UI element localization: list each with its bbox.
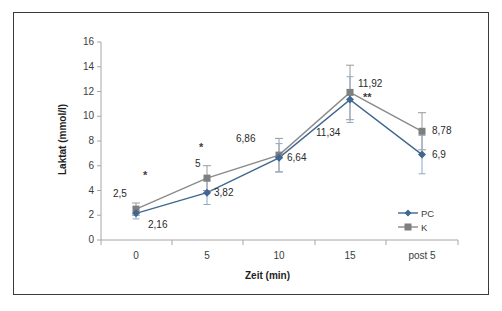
chart-page: 16 14 12 10 8 6 4 2 0 0 5 10 15 post 5 L… — [0, 0, 502, 311]
error-bars-pc — [133, 77, 426, 219]
y-tick-14: 14 — [72, 62, 94, 72]
y-tick-0: 0 — [72, 235, 94, 245]
y-tick-16: 16 — [72, 37, 94, 47]
x-axis-title: Zeit (min) — [245, 271, 290, 281]
data-label-k-0: 2,5 — [113, 189, 127, 199]
y-tick-10: 10 — [72, 111, 94, 121]
significance-marker-5: * — [199, 142, 203, 153]
data-label-k-5: 5 — [195, 159, 201, 169]
data-label-k-post5: 8,78 — [432, 126, 451, 136]
y-axis-title: Laktat (mmol/l) — [58, 104, 68, 175]
data-label-pc-15: 11,34 — [316, 128, 340, 138]
legend-label-k: K — [421, 223, 427, 233]
data-label-pc-post5: 6,9 — [432, 150, 446, 160]
x-axis-ticks — [101, 240, 458, 245]
y-axis-ticks — [97, 42, 101, 240]
x-tick-15: 15 — [320, 251, 380, 261]
data-label-pc-0: 2,16 — [148, 220, 167, 230]
data-label-pc-10: 6,64 — [287, 153, 306, 163]
legend-label-pc: PC — [421, 209, 434, 219]
x-tick-5: 5 — [177, 251, 237, 261]
y-tick-2: 2 — [72, 210, 94, 220]
x-tick-10: 10 — [249, 251, 309, 261]
y-tick-12: 12 — [72, 87, 94, 97]
significance-marker-0: * — [143, 170, 147, 181]
significance-marker-post5: ** — [363, 92, 372, 103]
data-label-pc-5: 3,82 — [214, 188, 233, 198]
data-label-k-15: 11,92 — [358, 79, 382, 89]
y-tick-4: 4 — [72, 186, 94, 196]
data-label-k-10: 6,86 — [236, 134, 255, 144]
series-markers-pc — [132, 96, 426, 218]
x-tick-0: 0 — [106, 251, 166, 261]
x-tick-post5: post 5 — [392, 251, 452, 261]
y-tick-6: 6 — [72, 161, 94, 171]
legend-symbols — [398, 210, 418, 231]
y-tick-8: 8 — [72, 136, 94, 146]
